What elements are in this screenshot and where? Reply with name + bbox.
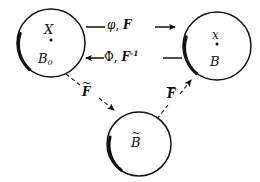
node-current-body bbox=[183, 12, 251, 80]
label-current-config-B: B bbox=[210, 55, 220, 68]
label-F-bar-base: F bbox=[167, 87, 176, 101]
label-F-tilde-stack: ~F bbox=[82, 86, 91, 98]
comma-separator: , bbox=[115, 18, 123, 32]
label-reference-point-X: X bbox=[44, 23, 53, 36]
label-reference-config-B0: B0 bbox=[38, 52, 53, 67]
material-point-marker bbox=[50, 39, 53, 42]
label-spatial-point-x: x bbox=[212, 29, 219, 41]
label-B-tilde-stack: ~B bbox=[131, 136, 141, 149]
tilde-accent: ~ bbox=[131, 128, 140, 139]
label-elastic-map: F bbox=[167, 88, 176, 100]
spatial-point-marker bbox=[216, 43, 219, 46]
sphere-shading-arc bbox=[185, 37, 197, 74]
capital-phi-symbol: Φ bbox=[104, 50, 114, 64]
F-inverse-exponent: -1 bbox=[130, 49, 138, 58]
sphere-shading-arc bbox=[18, 34, 29, 70]
label-B0-subscript: 0 bbox=[48, 58, 53, 67]
label-forward-map: φ, F bbox=[107, 19, 132, 31]
label-F-bar-stack: F bbox=[167, 88, 176, 100]
label-plastic-map: ~F bbox=[82, 86, 91, 98]
F-symbol: F bbox=[123, 18, 132, 32]
tilde-accent: ~ bbox=[82, 78, 91, 89]
label-B0-base: B bbox=[38, 51, 48, 66]
label-intermediate-config-B-tilde: ~B bbox=[131, 136, 141, 149]
label-inverse-map: Φ, F-1 bbox=[104, 50, 138, 63]
bar-accent bbox=[167, 87, 176, 88]
sphere-shading-arc bbox=[109, 137, 121, 170]
F-symbol: F bbox=[121, 50, 130, 64]
figure-canvas: X B0 x B ~B φ, F Φ, F-1 ~F F bbox=[0, 0, 260, 182]
